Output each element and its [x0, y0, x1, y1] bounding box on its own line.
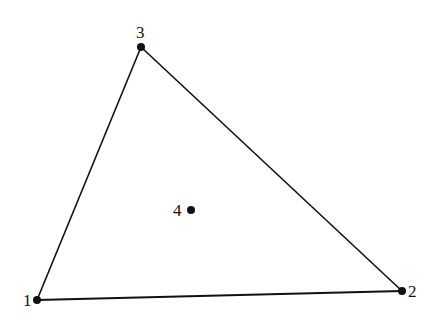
vertex-2-point [398, 287, 406, 295]
edge-2-3 [141, 47, 402, 291]
triangle-diagram: 1 2 3 4 [0, 0, 443, 323]
vertex-2-label: 2 [408, 282, 417, 301]
vertex-3-label: 3 [136, 23, 145, 42]
edge-3-1 [37, 47, 141, 300]
vertex-3-point [137, 43, 145, 51]
vertex-1-point [33, 296, 41, 304]
interior-point-4-label: 4 [173, 201, 182, 220]
edge-1-2 [37, 291, 402, 300]
vertex-1-label: 1 [23, 291, 32, 310]
interior-point-4 [187, 206, 195, 214]
